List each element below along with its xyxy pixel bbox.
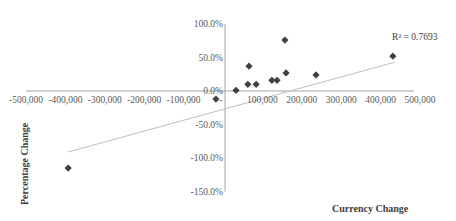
x-tick-label: 100,000 xyxy=(247,95,278,105)
data-point-diamond xyxy=(245,63,252,70)
y-tick-label: 100.0% xyxy=(194,19,223,29)
data-point-diamond xyxy=(312,71,319,78)
x-tick-label: -100,000 xyxy=(167,95,201,105)
x-tick-label: 300,000 xyxy=(326,95,357,105)
x-tick-label: -300,000 xyxy=(88,95,122,105)
axes xyxy=(26,24,414,192)
data-point-diamond xyxy=(281,36,288,43)
data-point-diamond xyxy=(282,69,289,76)
x-tick-label: - xyxy=(219,95,222,105)
y-axis-title: Percentage Change xyxy=(19,122,30,205)
x-tick-label: -200,000 xyxy=(127,95,161,105)
data-point-diamond xyxy=(244,81,251,88)
data-point-diamond xyxy=(232,87,239,94)
data-point-diamond xyxy=(65,164,72,171)
x-axis-title: Currency Change xyxy=(332,203,409,214)
y-tick-label: -50.0% xyxy=(195,120,223,130)
trendline xyxy=(68,62,395,152)
scatter-chart: 100.0%50.0%0.0%-50.0%-100.0%-150.0%-500,… xyxy=(0,0,456,221)
y-tick-label: -150.0% xyxy=(191,187,224,197)
x-tick-label: 500,000 xyxy=(405,95,436,105)
x-tick-label: 400,000 xyxy=(365,95,396,105)
x-tick-label: 200,000 xyxy=(286,95,317,105)
data-point-diamond xyxy=(273,77,280,84)
axis-labels: 100.0%50.0%0.0%-50.0%-100.0%-150.0%-500,… xyxy=(9,19,436,197)
y-tick-label: -100.0% xyxy=(191,153,224,163)
x-tick-label: -400,000 xyxy=(48,95,82,105)
y-tick-label: 50.0% xyxy=(198,53,223,63)
data-point-diamond xyxy=(253,81,260,88)
r-squared-label: R² = 0.7693 xyxy=(392,32,438,42)
x-tick-label: -500,000 xyxy=(9,95,43,105)
trendline-line xyxy=(68,62,395,152)
data-point-diamond xyxy=(389,53,396,60)
